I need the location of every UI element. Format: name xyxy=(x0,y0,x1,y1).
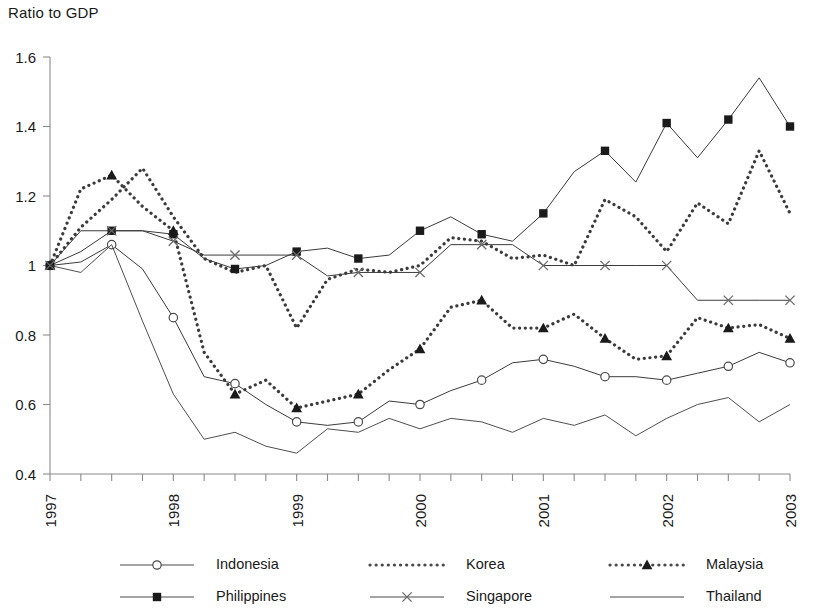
x-tick-label: 2002 xyxy=(659,494,676,527)
marker-open-circle xyxy=(416,400,424,408)
marker-filled-triangle xyxy=(642,560,653,570)
marker-filled-square xyxy=(601,147,609,155)
y-tick-label: 1.2 xyxy=(15,188,36,205)
marker-open-circle xyxy=(169,313,177,321)
y-tick-label: 0.6 xyxy=(15,396,36,413)
series-line-malaysia xyxy=(50,175,790,408)
legend-label-singapore: Singapore xyxy=(466,588,532,604)
x-tick-label: 2000 xyxy=(412,494,429,527)
marker-filled-square xyxy=(153,593,161,601)
marker-open-circle xyxy=(153,561,161,569)
x-tick-label: 1997 xyxy=(42,494,59,527)
marker-filled-triangle xyxy=(353,389,364,399)
marker-filled-square xyxy=(231,265,239,273)
marker-filled-square xyxy=(354,254,362,262)
y-tick-label: 1.6 xyxy=(15,49,36,66)
marker-open-circle xyxy=(477,376,485,384)
legend-item-thailand[interactable]: Thailand xyxy=(610,588,762,604)
series-line-singapore xyxy=(50,231,790,301)
marker-filled-square xyxy=(786,122,794,130)
marker-filled-square xyxy=(477,230,485,238)
marker-filled-square xyxy=(169,230,177,238)
marker-filled-square xyxy=(724,115,732,123)
marker-filled-square xyxy=(416,227,424,235)
legend-label-malaysia: Malaysia xyxy=(706,556,764,572)
series-philippines xyxy=(46,78,794,273)
marker-open-circle xyxy=(662,376,670,384)
legend-item-korea[interactable]: Korea xyxy=(370,556,506,572)
y-tick-label: 1.4 xyxy=(15,118,36,135)
marker-open-circle xyxy=(292,418,300,426)
chart-legend: IndonesiaKoreaMalaysiaPhilippinesSingapo… xyxy=(120,556,764,604)
marker-open-circle xyxy=(786,359,794,367)
x-tick-label: 2003 xyxy=(782,494,799,527)
marker-filled-triangle xyxy=(476,295,487,305)
x-tick-label: 1999 xyxy=(289,494,306,527)
marker-open-circle xyxy=(539,355,547,363)
series-line-philippines xyxy=(50,78,790,269)
y-tick-label: 1 xyxy=(28,257,36,274)
line-chart-plot: 0.40.60.811.21.41.6 19971998199920002001… xyxy=(0,0,831,614)
legend-item-malaysia[interactable]: Malaysia xyxy=(610,556,764,572)
marker-open-circle xyxy=(231,379,239,387)
series-malaysia xyxy=(45,170,796,413)
chart-root: Ratio to GDP 0.40.60.811.21.41.6 1997199… xyxy=(0,0,831,614)
marker-open-circle xyxy=(724,362,732,370)
series-indonesia xyxy=(46,240,794,426)
y-tick-label: 0.8 xyxy=(15,327,36,344)
series-layer xyxy=(45,78,796,453)
legend-label-philippines: Philippines xyxy=(216,588,286,604)
legend-label-indonesia: Indonesia xyxy=(216,556,280,572)
marker-open-circle xyxy=(354,418,362,426)
y-axis: 0.40.60.811.21.41.6 xyxy=(15,49,50,483)
y-tick-label: 0.4 xyxy=(15,466,36,483)
legend-item-indonesia[interactable]: Indonesia xyxy=(120,556,280,572)
x-tick-label: 1998 xyxy=(165,494,182,527)
marker-filled-square xyxy=(662,119,670,127)
x-tick-label: 2001 xyxy=(535,494,552,527)
legend-item-singapore[interactable]: Singapore xyxy=(370,588,532,604)
series-korea xyxy=(50,151,790,328)
marker-filled-triangle xyxy=(106,170,117,180)
x-axis: 1997199819992000200120022003 xyxy=(42,474,799,527)
legend-item-philippines[interactable]: Philippines xyxy=(120,588,286,604)
marker-filled-square xyxy=(539,209,547,217)
legend-label-korea: Korea xyxy=(466,556,506,572)
legend-label-thailand: Thailand xyxy=(706,588,762,604)
marker-open-circle xyxy=(601,373,609,381)
series-line-korea xyxy=(50,151,790,328)
